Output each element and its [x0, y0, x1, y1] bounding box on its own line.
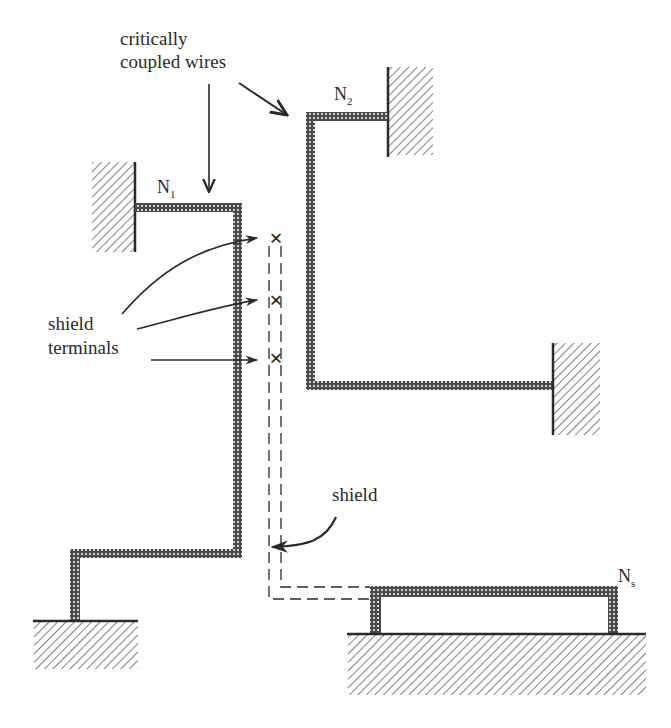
label-shield: shield: [332, 484, 378, 505]
n1-ground-icon: [92, 162, 135, 252]
label-shield-terminals-1: shield: [48, 313, 94, 334]
terminal-x-icon: ×: [269, 345, 283, 371]
terminal-x-icon: ×: [269, 225, 283, 251]
n2-right-ground-icon: [553, 343, 600, 435]
wire-n1: [70, 203, 242, 620]
shield-terminal-markers: × × ×: [269, 225, 283, 371]
wire-ns: [370, 586, 618, 634]
label-n2: N2: [334, 84, 353, 107]
arrow-diagonal-to-n2-icon: [239, 83, 287, 115]
n2-ground-icon: [388, 67, 433, 157]
label-shield-terminals-2: terminals: [48, 337, 119, 358]
coupled-wires-label: critically coupled wires: [120, 28, 226, 72]
label-ns: Ns: [618, 566, 635, 589]
label-coupled-wires: coupled wires: [120, 51, 226, 72]
label-critically: critically: [120, 28, 188, 49]
n1-bottom-ground-icon: [33, 621, 138, 669]
shield-wiring-diagram: critically coupled wires N1 N2: [0, 0, 671, 728]
terminal-x-icon: ×: [269, 287, 283, 313]
shield-terminals-label: shield terminals: [48, 313, 119, 358]
label-n1: N1: [157, 177, 176, 200]
ns-ground-icon: [347, 634, 646, 695]
